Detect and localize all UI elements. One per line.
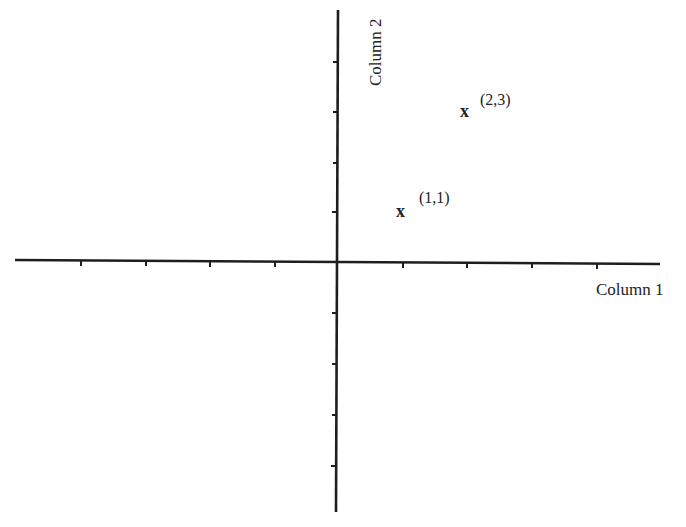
data-point-marker: x <box>396 202 405 220</box>
y-axis <box>336 10 338 512</box>
data-point-label: (2,3) <box>480 92 511 108</box>
y-axis-label: Column 2 <box>367 18 384 86</box>
data-point-label: (1,1) <box>419 190 450 206</box>
plot-area <box>0 0 686 527</box>
data-point-marker: x <box>460 102 469 120</box>
x-axis-label: Column 1 <box>596 281 664 298</box>
